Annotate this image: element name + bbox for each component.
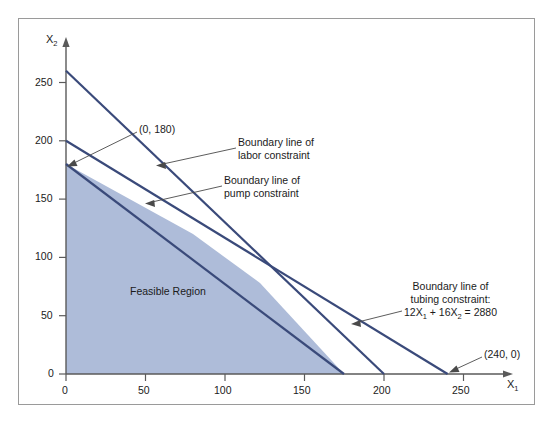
leader-point-240-0 — [456, 357, 482, 369]
x-axis-arrow-icon — [503, 370, 513, 377]
annotation-tubing-constraint: Boundary line of tubing constraint: 12X1… — [404, 280, 497, 323]
tubing-eq-term-c: = 2880 — [462, 306, 497, 318]
y-axis-arrow-icon — [62, 37, 69, 47]
y-tick-label-250: 250 — [35, 76, 53, 88]
y-tick-label-150: 150 — [35, 192, 53, 204]
x-tick-label-50: 50 — [138, 384, 150, 396]
y-tick-label-0: 0 — [48, 367, 54, 379]
annotation-point-0-180: (0, 180) — [139, 123, 175, 136]
x-axis-ticks — [66, 374, 464, 381]
annotation-point-240-0: (240, 0) — [484, 348, 520, 361]
y-axis-label-sub: 2 — [53, 39, 57, 48]
y-axis-ticks — [59, 83, 66, 375]
annotation-tubing-line1: Boundary line of — [404, 280, 497, 293]
x-tick-label-0: 0 — [62, 384, 68, 396]
tubing-eq-term-a: 12X — [404, 306, 423, 318]
leader-arrow-tubing-icon — [351, 320, 361, 327]
annotation-labor-constraint: Boundary line of labor constraint — [238, 136, 314, 162]
y-axis-label: X2 — [46, 33, 58, 48]
annotation-pump-line2: pump constraint — [224, 187, 300, 200]
annotation-labor-line1: Boundary line of — [238, 136, 314, 149]
leader-pump-constraint — [152, 186, 222, 202]
x-tick-label-200: 200 — [373, 384, 391, 396]
linear-programming-graph: X2 X1 0 50 100 150 200 250 0 50 100 150 … — [0, 0, 555, 426]
x-axis-label: X1 — [507, 378, 519, 393]
annotation-tubing-equation: 12X1 + 16X2 = 2880 — [404, 306, 497, 323]
tubing-eq-term-b: + 16X — [427, 306, 458, 318]
x-axis-label-sub: 1 — [514, 384, 518, 393]
annotation-tubing-line2: tubing constraint: — [404, 293, 497, 306]
leader-labor-constraint — [163, 148, 236, 164]
leader-arrow-240-0-icon — [449, 366, 460, 373]
feasible-region-label: Feasible Region — [130, 285, 206, 297]
leader-arrow-pump-icon — [145, 200, 155, 207]
leader-tubing-constraint — [358, 311, 402, 322]
annotation-pump-constraint: Boundary line of pump constraint — [224, 174, 300, 200]
plot-canvas — [0, 0, 555, 426]
y-tick-label-200: 200 — [35, 134, 53, 146]
leader-point-0-180 — [74, 132, 137, 163]
leader-arrow-0-180-icon — [67, 160, 78, 167]
x-tick-label-250: 250 — [452, 384, 470, 396]
leader-arrow-labor-icon — [156, 162, 166, 169]
x-tick-label-100: 100 — [214, 384, 232, 396]
y-tick-label-100: 100 — [35, 250, 53, 262]
annotation-labor-line2: labor constraint — [238, 149, 314, 162]
y-tick-label-50: 50 — [41, 309, 53, 321]
x-tick-label-150: 150 — [293, 384, 311, 396]
annotation-pump-line1: Boundary line of — [224, 174, 300, 187]
